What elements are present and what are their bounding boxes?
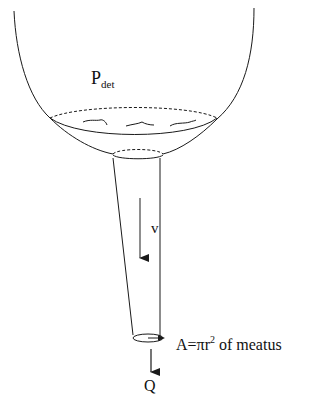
- bladder-neck-back: [113, 150, 163, 155]
- bladder-wall-right: [163, 8, 254, 154]
- area-label: A=πr2 of meatus: [176, 334, 282, 353]
- urethra-wall-left: [113, 158, 133, 335]
- flow-label: Q: [144, 377, 156, 394]
- ripple-icon: [83, 120, 107, 125]
- velocity-label: v: [151, 220, 159, 236]
- bladder-neck-front: [113, 155, 163, 159]
- pressure-label: Pdet: [91, 68, 114, 90]
- fluid-level-front: [50, 118, 217, 135]
- ripple-icon: [126, 122, 154, 126]
- ripple-icon: [170, 120, 196, 126]
- bladder-flow-diagram: Pdet v A=πr2 of meatus Q: [0, 0, 313, 400]
- fluid-level-back: [50, 108, 217, 119]
